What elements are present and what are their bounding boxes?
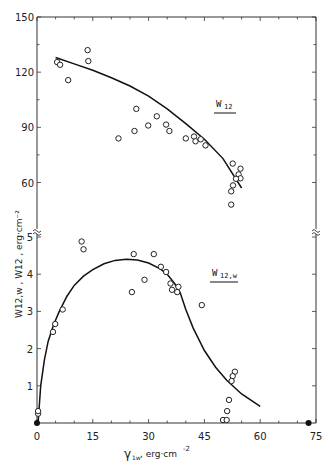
upper-data-point xyxy=(163,122,168,127)
lower-series-label-sub: 12,w xyxy=(220,272,238,280)
upper-series-label-main: W xyxy=(216,99,222,109)
chart-figure: 01530456075609012015012345 W 12 W 12,w γ… xyxy=(0,0,329,466)
lower-data-point xyxy=(163,269,168,274)
axis-ticks xyxy=(37,17,316,423)
lower-data-point xyxy=(129,289,134,294)
x-axis-dot-marker xyxy=(306,420,312,426)
lower-data-point xyxy=(35,408,40,413)
upper-data-point xyxy=(198,137,203,142)
x-tick-label: 15 xyxy=(86,431,99,442)
data-points xyxy=(35,47,243,422)
lower-data-point xyxy=(224,417,229,422)
upper-y-tick-label: 60 xyxy=(21,178,34,189)
upper-y-tick-label: 90 xyxy=(21,122,34,133)
lower-data-point xyxy=(199,302,204,307)
lower-y-tick-label: 2 xyxy=(27,344,33,355)
lower-y-tick-label: 4 xyxy=(27,269,33,280)
upper-data-point xyxy=(154,114,159,119)
upper-data-point xyxy=(66,77,71,82)
fit-curves xyxy=(38,58,260,424)
upper-y-tick-label: 150 xyxy=(15,12,34,23)
upper-data-point xyxy=(146,123,151,128)
upper-data-point xyxy=(132,128,137,133)
upper-data-point xyxy=(229,202,234,207)
x-tick-label: 75 xyxy=(310,431,323,442)
upper-data-point xyxy=(57,62,62,67)
lower-series-label: W 12,w xyxy=(210,268,238,282)
upper-data-point xyxy=(193,139,198,144)
lower-data-point xyxy=(60,307,65,312)
tick-labels: 01530456075609012015012345 xyxy=(15,12,322,442)
lower-data-point xyxy=(175,289,180,294)
lower-data-point xyxy=(176,284,181,289)
x-tick-label: 30 xyxy=(142,431,155,442)
lower-data-point xyxy=(131,251,136,256)
upper-data-point xyxy=(116,136,121,141)
upper-data-point xyxy=(229,189,234,194)
upper-data-point xyxy=(183,136,188,141)
lower-data-point xyxy=(151,251,156,256)
x-axis-unit: , erg·cm xyxy=(140,449,177,459)
upper-data-point xyxy=(85,47,90,52)
upper-y-tick-label: 120 xyxy=(15,67,34,78)
lower-data-point xyxy=(229,378,234,383)
plot-frame xyxy=(33,17,320,423)
lower-data-point xyxy=(224,408,229,413)
lower-y-tick-label: 1 xyxy=(27,381,33,392)
lower-y-tick-label: 3 xyxy=(27,306,33,317)
lower-series-label-main: W xyxy=(212,268,218,278)
lower-y-tick-label: 5 xyxy=(27,232,33,243)
x-tick-label: 60 xyxy=(254,431,267,442)
lower-data-point xyxy=(50,329,55,334)
upper-data-point xyxy=(167,128,172,133)
upper-data-point xyxy=(203,143,208,148)
upper-data-point xyxy=(86,58,91,63)
upper-series-label-sub: 12 xyxy=(224,103,232,111)
y-axis-title: W12,w , W12 , erg·cm⁻² xyxy=(14,210,24,318)
x-axis-gamma: γ xyxy=(124,447,131,461)
lower-data-point xyxy=(158,264,163,269)
x-tick-label: 45 xyxy=(198,431,211,442)
x-axis-dot-marker xyxy=(34,420,40,426)
upper-data-point xyxy=(233,176,238,181)
lower-data-point xyxy=(81,247,86,252)
lower-data-point xyxy=(53,321,58,326)
x-tick-label: 0 xyxy=(34,431,40,442)
lower-data-point xyxy=(226,397,231,402)
lower-data-point xyxy=(79,239,84,244)
upper-series-label: W 12 xyxy=(214,99,236,113)
lower-data-point xyxy=(142,277,147,282)
x-axis-title: γ 1w , erg·cm -2 xyxy=(124,445,190,461)
lower-data-point xyxy=(168,281,173,286)
lower-data-point xyxy=(169,287,174,292)
upper-data-point xyxy=(230,161,235,166)
upper-data-point xyxy=(230,183,235,188)
upper-data-point xyxy=(238,166,243,171)
upper-data-point xyxy=(134,106,139,111)
x-axis-exponent: -2 xyxy=(183,445,190,453)
